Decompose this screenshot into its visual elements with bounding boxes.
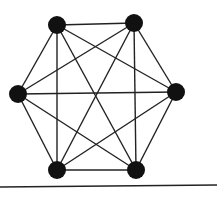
node-bottom-right: [127, 161, 145, 179]
edge-top-right-right: [134, 23, 176, 92]
edge-top-left-top-right: [57, 23, 134, 25]
node-top-left: [48, 16, 66, 34]
edge-right-bottom-right: [136, 92, 176, 170]
edge-top-left-left: [18, 25, 57, 94]
edge-bottom-right-left: [18, 94, 136, 170]
node-left: [9, 85, 27, 103]
node-right: [167, 83, 185, 101]
edge-bottom-left-left: [18, 94, 57, 170]
edge-right-left: [18, 92, 176, 94]
graph-edges: [18, 23, 176, 170]
complete-graph-diagram: [0, 0, 217, 201]
node-bottom-left: [48, 161, 66, 179]
graph-nodes: [9, 14, 185, 179]
edge-top-right-bottom-right: [134, 23, 136, 170]
baseline-rule: [0, 185, 217, 187]
node-top-right: [125, 14, 143, 32]
